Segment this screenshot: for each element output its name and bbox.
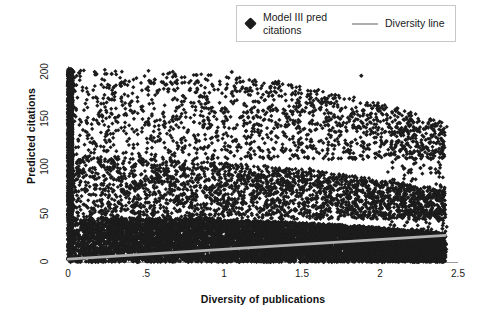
legend-entry-model-iii: Model III pred citations (246, 11, 350, 36)
scatter-plot-data-area (0, 0, 488, 318)
scatter-plot-figure: Model III pred citations Diversity line … (0, 0, 488, 318)
legend-label-diversity-line: Diversity line (385, 17, 445, 30)
legend-entry-diversity-line: Diversity line (352, 17, 445, 30)
chart-legend: Model III pred citations Diversity line (236, 5, 456, 42)
diamond-marker-icon (244, 17, 257, 30)
legend-label-model-iii: Model III pred citations (263, 11, 350, 36)
line-swatch-icon (352, 23, 378, 25)
